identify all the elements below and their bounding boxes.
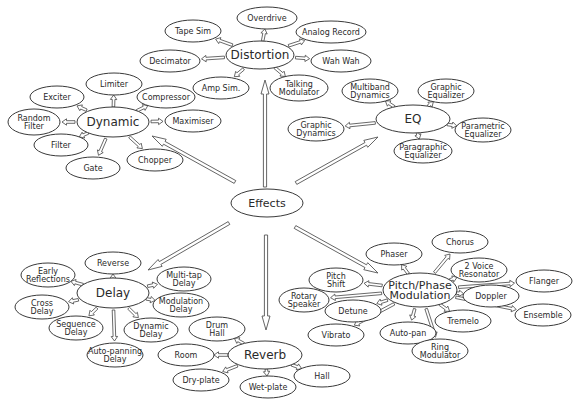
node-room[interactable]: Room: [158, 344, 214, 366]
node-chorus[interactable]: Chorus: [432, 231, 488, 253]
arrow-reverb-to-dry-plate: [223, 365, 238, 373]
arrow-distortion-to-tape-sim: [216, 38, 233, 47]
node-room-label: Room: [175, 351, 198, 360]
node-distortion[interactable]: Distortion: [226, 41, 294, 69]
node-tremelo[interactable]: Tremelo: [435, 310, 491, 332]
node-hall[interactable]: Hall: [294, 365, 350, 387]
node-ensemble[interactable]: Ensemble: [515, 304, 571, 326]
arrow-dynamic-to-maximiser: [151, 118, 163, 124]
node-talking-modulator[interactable]: TalkingModulator: [270, 75, 328, 101]
arrow-pitch-to-auto-pan: [410, 308, 416, 320]
node-cross-delay[interactable]: CrossDelay: [15, 295, 69, 319]
node-sequence-delay[interactable]: SequenceDelay: [49, 316, 103, 340]
arrow-eq-to-paragraphic-equalizer: [415, 133, 421, 140]
arrow-dynamic-to-gate: [97, 138, 107, 155]
node-doppler-label: Doppler: [475, 292, 507, 301]
node-doppler[interactable]: Doppler: [463, 285, 519, 307]
node-dynamic-label: Dynamic: [87, 115, 140, 129]
node-chopper-label: Chopper: [138, 156, 173, 165]
node-random-filter[interactable]: RandomFilter: [8, 109, 60, 135]
node-chopper[interactable]: Chopper: [127, 149, 183, 171]
node-wet-plate[interactable]: Wet-plate: [240, 376, 296, 398]
node-overdrive[interactable]: Overdrive: [237, 7, 297, 29]
node-auto-panning-delay[interactable]: Auto-panningDelay: [87, 343, 143, 367]
node-exciter[interactable]: Exciter: [30, 86, 84, 108]
node-drum-hall-label: Hall: [209, 329, 224, 338]
node-parametric-equalizer[interactable]: ParametricEqualizer: [455, 118, 511, 142]
node-amp-sim-label: Amp Sim.: [202, 84, 241, 93]
node-delay[interactable]: Delay: [77, 278, 149, 308]
node-tremelo-label: Tremelo: [446, 317, 479, 326]
node-dynamic-delay[interactable]: DynamicDelay: [124, 318, 178, 342]
arrow-distortion-to-amp-sim: [234, 68, 244, 77]
node-wah-wah[interactable]: Wah Wah: [311, 50, 371, 72]
node-modulation-delay[interactable]: ModulationDelay: [153, 293, 209, 317]
arrow-pitch-to-rotary-speaker: [331, 292, 382, 301]
node-vibrato-label: Vibrato: [322, 331, 351, 340]
node-random-filter-label: Filter: [24, 122, 45, 131]
arrow-distortion-to-analog-record: [288, 39, 305, 47]
node-reverse[interactable]: Reverse: [85, 252, 141, 274]
node-compressor[interactable]: Compressor: [137, 86, 195, 108]
node-graphic-equalizer[interactable]: GraphicEqualizer: [418, 79, 474, 103]
node-amp-sim[interactable]: Amp Sim.: [193, 77, 249, 99]
node-tape-sim[interactable]: Tape Sim: [165, 20, 221, 42]
arrow-to-reverb: [262, 235, 270, 330]
arrow-delay-to-multi-tap-delay: [147, 282, 157, 288]
node-wah-wah-label: Wah Wah: [322, 57, 359, 66]
node-maximiser[interactable]: Maximiser: [165, 110, 221, 132]
node-effects[interactable]: Effects: [231, 189, 303, 217]
node-rotary-speaker-label: Speaker: [288, 300, 321, 309]
arrow-distortion-to-decimator: [202, 55, 225, 61]
node-dry-plate[interactable]: Dry-plate: [173, 369, 229, 391]
node-modulation-delay-label: Delay: [170, 305, 193, 314]
node-phaser[interactable]: Phaser: [366, 243, 422, 265]
arrow-reverb-to-room: [214, 352, 228, 358]
node-graphic-equalizer-label: Equalizer: [428, 91, 466, 100]
node-pitch-shift-label: Shift: [327, 280, 345, 289]
node-paragraphic-equalizer[interactable]: ParagraphicEqualizer: [394, 139, 452, 163]
node-decimator-label: Decimator: [149, 57, 191, 66]
node-early-reflections-label: Reflections: [26, 275, 70, 284]
node-detune-label: Detune: [338, 307, 367, 316]
node-vibrato[interactable]: Vibrato: [308, 324, 364, 346]
node-drum-hall[interactable]: DrumHall: [189, 317, 245, 341]
node-multi-tap-delay-label: Delay: [173, 279, 196, 288]
node-2-voice-resonator[interactable]: 2 VoiceResonator: [451, 258, 507, 282]
node-multi-tap-delay[interactable]: Multi-tapDelay: [157, 267, 211, 291]
node-limiter-label: Limiter: [100, 80, 129, 89]
arrow-reverb-to-wet-plate: [263, 369, 269, 376]
node-reverb[interactable]: Reverb: [228, 341, 302, 369]
node-dynamic[interactable]: Dynamic: [77, 107, 149, 137]
node-auto-panning-delay-label: Delay: [104, 355, 127, 364]
arrow-pitch-to-chorus: [434, 254, 451, 273]
arrow-to-delay: [148, 222, 230, 270]
arrow-distortion-to-wah-wah: [295, 55, 309, 61]
arrow-dynamic-to-limiter: [110, 95, 116, 107]
node-filter[interactable]: Filter: [34, 134, 88, 156]
arrow-delay-to-dynamic-delay: [128, 307, 139, 317]
arrow-to-distortion: [261, 80, 269, 187]
node-eq[interactable]: EQ: [376, 105, 450, 133]
node-sequence-delay-label: Delay: [65, 328, 88, 337]
node-flanger[interactable]: Flanger: [516, 270, 572, 292]
node-maximiser-label: Maximiser: [172, 117, 214, 126]
node-gate[interactable]: Gate: [66, 157, 120, 179]
node-detune[interactable]: Detune: [325, 300, 381, 322]
arrow-delay-to-sequence-delay: [89, 307, 98, 316]
arrow-pitch-to-detune: [377, 299, 388, 305]
arrow-dynamic-to-exciter: [77, 105, 87, 112]
node-hall-label: Hall: [314, 372, 329, 381]
node-graphic-dynamics[interactable]: GraphicDynamics: [288, 117, 344, 141]
node-pitch-shift[interactable]: PitchShift: [309, 268, 363, 292]
node-early-reflections[interactable]: EarlyReflections: [21, 263, 75, 287]
node-rotary-speaker[interactable]: RotarySpeaker: [279, 288, 329, 312]
node-multiband-dynamics[interactable]: MultibandDynamics: [342, 79, 398, 103]
node-pitch[interactable]: Pitch/PhaseModulation: [383, 273, 457, 307]
node-ensemble-label: Ensemble: [523, 311, 562, 320]
node-decimator[interactable]: Decimator: [140, 50, 200, 72]
node-analog-record[interactable]: Analog Record: [296, 21, 366, 43]
node-limiter[interactable]: Limiter: [86, 73, 142, 95]
node-ring-modulator[interactable]: RingModulator: [412, 339, 468, 363]
node-flanger-label: Flanger: [529, 277, 560, 286]
